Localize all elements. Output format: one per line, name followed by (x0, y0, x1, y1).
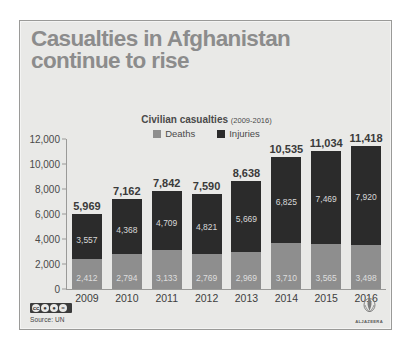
bar-group[interactable]: 11,0347,4693,565 (311, 139, 341, 289)
bar-segment-injuries[interactable]: 4,368 (112, 199, 142, 254)
bar-segment-deaths[interactable]: 2,969 (231, 252, 261, 289)
infographic-panel: Casualties in Afghanistan continue to ri… (19, 20, 392, 330)
title-line-2: continue to rise (31, 50, 381, 72)
bar-total-label: 7,842 (153, 177, 181, 189)
bar-segment-value: 4,821 (196, 222, 217, 232)
bar-total-label: 11,034 (310, 137, 343, 149)
bar-segment-value: 3,710 (276, 273, 297, 283)
bar-segment-injuries[interactable]: 6,825 (271, 157, 301, 242)
y-axis-tick-label: 2,000 (35, 259, 60, 270)
title-line-1: Casualties in Afghanistan (31, 28, 381, 50)
chart-plot-area: 02,0004,0006,0008,00010,00012,000 5,9693… (20, 139, 392, 307)
y-axis-tick-label: 6,000 (35, 209, 60, 220)
bar-group[interactable]: 10,5356,8253,710 (271, 139, 301, 289)
bar-segment-injuries[interactable]: 4,709 (152, 191, 182, 250)
bar-group[interactable]: 7,1624,3682,794 (112, 139, 142, 289)
aljazeera-logo: ALJAZEERA (355, 295, 383, 324)
source-label: Source: UN (30, 316, 72, 323)
y-axis: 02,0004,0006,0008,00010,00012,000 (20, 139, 66, 289)
bar-total-label: 11,418 (350, 132, 383, 144)
legend-item-injuries[interactable]: Injuries (217, 128, 260, 139)
bar-total-label: 8,638 (233, 167, 261, 179)
y-axis-tick-label: 12,000 (29, 134, 60, 145)
y-axis-tick-label: 10,000 (29, 159, 60, 170)
legend-label: Injuries (229, 128, 260, 139)
bar-segment-deaths[interactable]: 2,412 (72, 259, 102, 289)
aljazeera-wordmark: ALJAZEERA (355, 319, 383, 324)
bar-total-label: 5,969 (73, 200, 101, 212)
bar-segment-value: 5,669 (236, 214, 257, 224)
square-swatch-icon (217, 130, 225, 138)
bar-series-container: 5,9693,5572,4127,1624,3682,7947,8424,709… (67, 139, 386, 289)
page-title: Casualties in Afghanistan continue to ri… (31, 28, 381, 72)
bar-segment-value: 2,769 (196, 273, 217, 283)
y-axis-tick-label: 4,000 (35, 234, 60, 245)
bar-segment-deaths[interactable]: 2,794 (112, 254, 142, 289)
creative-commons-icon: cc ● ● = (30, 303, 72, 313)
bar-segment-value: 6,825 (276, 197, 297, 207)
bar-segment-value: 2,969 (236, 273, 257, 283)
bar-segment-value: 4,709 (156, 218, 177, 228)
bar-segment-value: 2,412 (76, 273, 97, 283)
cc-share-icon: ● (50, 304, 58, 312)
bar-segment-value: 3,498 (355, 273, 376, 283)
license-block: cc ● ● = Source: UN (30, 303, 72, 323)
bar-segment-value: 7,920 (355, 192, 376, 202)
bar-group[interactable]: 7,5904,8212,769 (192, 139, 222, 289)
chart-footer: cc ● ● = Source: UN ALJAZEERA (20, 291, 392, 329)
chart-subtitle-range: (2009-2016) (231, 116, 272, 125)
bar-group[interactable]: 11,4187,9203,498 (351, 139, 381, 289)
legend-item-deaths[interactable]: Deaths (153, 128, 195, 139)
x-axis-line (66, 289, 386, 290)
aljazeera-mark-icon (361, 295, 378, 314)
cc-attribution-icon: ● (41, 304, 49, 312)
bar-segment-injuries[interactable]: 3,557 (72, 214, 102, 258)
bar-total-label: 7,590 (193, 180, 221, 192)
bar-segment-deaths[interactable]: 3,565 (311, 244, 341, 289)
bar-segment-deaths[interactable]: 2,769 (192, 254, 222, 289)
y-axis-tick-label: 8,000 (35, 184, 60, 195)
bar-segment-deaths[interactable]: 3,133 (152, 250, 182, 289)
bar-group[interactable]: 8,6385,6692,969 (231, 139, 261, 289)
cc-circle-icon: cc (32, 304, 40, 312)
chart-subtitle-main: Civilian casualties (141, 114, 228, 125)
bar-total-label: 10,535 (269, 143, 303, 155)
bar-segment-injuries[interactable]: 4,821 (192, 194, 222, 254)
bar-segment-value: 7,469 (316, 194, 337, 204)
bar-segment-injuries[interactable]: 5,669 (231, 181, 261, 252)
bar-segment-value: 2,794 (116, 273, 137, 283)
bar-segment-value: 3,557 (76, 235, 97, 245)
legend-label: Deaths (165, 128, 195, 139)
bar-total-label: 7,162 (113, 185, 141, 197)
bar-segment-value: 3,133 (156, 273, 177, 283)
bar-segment-deaths[interactable]: 3,710 (271, 243, 301, 289)
bar-segment-value: 3,565 (316, 273, 337, 283)
bar-segment-value: 4,368 (116, 225, 137, 235)
bar-group[interactable]: 5,9693,5572,412 (72, 139, 102, 289)
bar-group[interactable]: 7,8424,7093,133 (152, 139, 182, 289)
chart-subtitle: Civilian casualties (2009-2016) (20, 114, 392, 125)
bar-segment-deaths[interactable]: 3,498 (351, 245, 381, 289)
cc-noderiv-icon: = (59, 304, 67, 312)
bar-segment-injuries[interactable]: 7,469 (311, 151, 341, 244)
square-swatch-icon (153, 130, 161, 138)
bar-segment-injuries[interactable]: 7,920 (351, 146, 381, 245)
